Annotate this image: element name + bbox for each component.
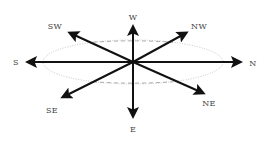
arrow-se-icon bbox=[63, 62, 133, 97]
label-se: SE bbox=[46, 106, 58, 115]
label-n: N bbox=[249, 59, 256, 68]
arrow-ne-icon bbox=[133, 62, 203, 93]
label-s: S bbox=[13, 58, 19, 67]
label-e: E bbox=[130, 125, 136, 134]
arrow-nw-icon bbox=[133, 33, 186, 62]
label-nw: NW bbox=[191, 22, 207, 31]
label-sw: SW bbox=[48, 22, 62, 31]
arrow-sw-icon bbox=[70, 33, 133, 62]
label-ne: NE bbox=[202, 99, 215, 108]
label-w: W bbox=[129, 13, 138, 22]
